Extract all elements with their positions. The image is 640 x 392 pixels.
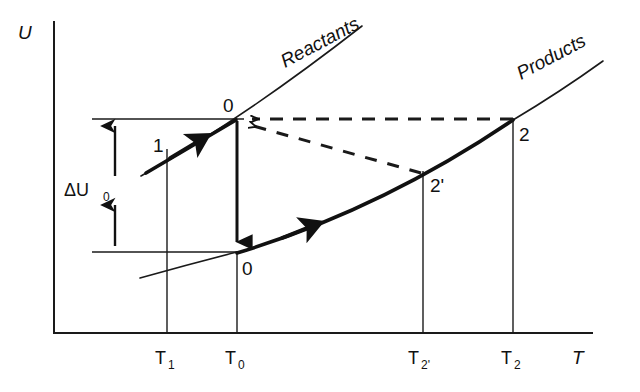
x-tick-T0-sub: 0 (238, 358, 245, 372)
x-tick-T0-base: T (225, 348, 236, 368)
point-label-1: 1 (153, 135, 164, 156)
delta-u-label: ΔU (64, 180, 89, 200)
x-tick-T1: T 1 (155, 348, 175, 372)
point-label-0-lower: 0 (242, 258, 253, 279)
products-curve-group: Products (140, 30, 603, 278)
process-paths (146, 120, 513, 253)
point-label-2: 2 (519, 124, 530, 145)
energy-temperature-chart: U T ΔU 0 Reactants (0, 0, 640, 392)
thermo-diagram-figure: U T ΔU 0 Reactants (0, 0, 640, 392)
x-axis-label: T (572, 347, 585, 368)
x-tick-T0: T 0 (225, 348, 245, 372)
reactants-curve-label: Reactants (277, 13, 363, 72)
products-curve-left-tail (140, 252, 237, 278)
x-tick-T2prime: T 2' (408, 348, 430, 372)
process-heat-products-arrowhead (282, 226, 312, 238)
dashed-path-to-2prime (250, 125, 421, 173)
point-label-2-prime: 2' (430, 175, 444, 196)
x-tick-T1-base: T (155, 348, 166, 368)
process-heat-products (237, 120, 513, 253)
delta-u-annotation: ΔU 0 (64, 126, 115, 246)
x-tick-T2prime-base: T (408, 348, 419, 368)
x-tick-T2prime-sub: 2' (421, 358, 430, 372)
products-curve-label: Products (513, 30, 590, 84)
x-tick-T2-base: T (501, 348, 512, 368)
delta-u-subscript: 0 (103, 190, 110, 204)
process-heat-reactants-arrowhead (170, 140, 200, 158)
x-tick-T1-sub: 1 (168, 358, 175, 372)
point-label-0-upper: 0 (223, 95, 234, 116)
x-tick-labels: T 1 T 0 T 2' T 2 (155, 348, 521, 372)
y-axis-label: U (18, 22, 32, 43)
x-tick-T2: T 2 (501, 348, 521, 372)
reactants-curve-group: Reactants (141, 13, 363, 176)
x-tick-T2-sub: 2 (514, 358, 521, 372)
